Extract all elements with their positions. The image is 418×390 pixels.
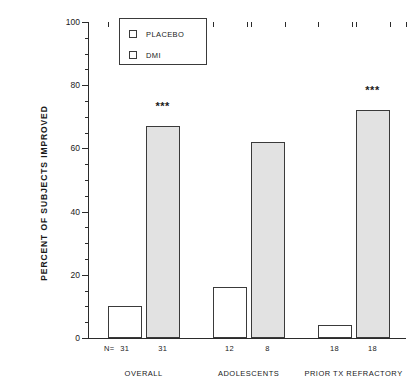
y-tick-minor <box>85 227 88 228</box>
y-tick-major <box>82 275 88 276</box>
y-tick-minor <box>85 243 88 244</box>
y-tick-label: 60 <box>56 143 80 153</box>
n-value: 18 <box>368 344 377 353</box>
n-row-prefix: N= <box>104 344 114 353</box>
significance-marker: *** <box>155 100 169 112</box>
y-tick-minor <box>85 38 88 39</box>
x-tick <box>247 22 248 27</box>
legend-swatch-dmi-icon <box>129 51 137 59</box>
x-tick <box>356 22 357 27</box>
n-value: 31 <box>158 344 167 353</box>
group-label-adolescents: ADOLESCENTS <box>218 369 279 378</box>
y-tick-label: 0 <box>56 333 80 343</box>
x-tick <box>88 22 89 27</box>
x-tick <box>390 22 391 27</box>
group-label-overall: OVERALL <box>125 369 163 378</box>
legend-swatch-placebo-icon <box>129 30 137 38</box>
legend-label-placebo: PLACEBO <box>146 30 184 39</box>
y-tick-minor <box>85 306 88 307</box>
y-tick-minor <box>85 101 88 102</box>
bar-dmi-adolescents <box>251 142 285 338</box>
bar-placebo-adolescents <box>213 287 247 338</box>
n-value: 18 <box>330 344 339 353</box>
x-tick <box>251 22 252 27</box>
y-tick-major <box>82 85 88 86</box>
y-tick-minor <box>85 291 88 292</box>
significance-marker: *** <box>365 84 379 96</box>
y-axis-line <box>88 22 89 338</box>
x-tick <box>213 22 214 27</box>
y-tick-minor <box>85 164 88 165</box>
bar-placebo-prior-tx-refractory <box>318 325 352 338</box>
y-tick-major <box>82 148 88 149</box>
x-tick <box>285 22 286 27</box>
y-tick-label: 40 <box>56 207 80 217</box>
y-tick-label: 20 <box>56 270 80 280</box>
bar-placebo-overall <box>108 306 142 338</box>
y-tick-minor <box>85 117 88 118</box>
x-axis-line <box>88 338 406 339</box>
y-tick-minor <box>85 69 88 70</box>
n-value: 8 <box>265 344 269 353</box>
y-tick-minor <box>85 133 88 134</box>
y-tick-minor <box>85 180 88 181</box>
bar-dmi-prior-tx-refractory <box>356 110 390 338</box>
y-tick-label: 80 <box>56 80 80 90</box>
y-tick-major <box>82 338 88 339</box>
x-tick <box>108 22 109 27</box>
plot-area: 020406080100 ****** <box>88 22 406 338</box>
chart-figure: PERCENT OF SUBJECTS IMPROVED 02040608010… <box>0 0 418 390</box>
y-tick-minor <box>85 259 88 260</box>
y-tick-label: 100 <box>56 17 80 27</box>
y-tick-minor <box>85 322 88 323</box>
legend: PLACEBO DMI <box>119 18 207 65</box>
legend-item-placebo: PLACEBO <box>129 26 206 42</box>
y-tick-minor <box>85 54 88 55</box>
n-value: 12 <box>225 344 234 353</box>
y-tick-minor <box>85 196 88 197</box>
y-axis-title: PERCENT OF SUBJECTS IMPROVED <box>39 83 49 303</box>
legend-item-dmi: DMI <box>129 47 206 63</box>
bar-dmi-overall <box>146 126 180 338</box>
legend-label-dmi: DMI <box>146 51 161 60</box>
x-tick <box>352 22 353 27</box>
x-tick <box>406 22 407 27</box>
group-label-prior-tx-refractory: PRIOR TX REFRACTORY <box>304 369 402 378</box>
n-value: 31 <box>120 344 129 353</box>
x-tick <box>318 22 319 27</box>
y-tick-major <box>82 212 88 213</box>
